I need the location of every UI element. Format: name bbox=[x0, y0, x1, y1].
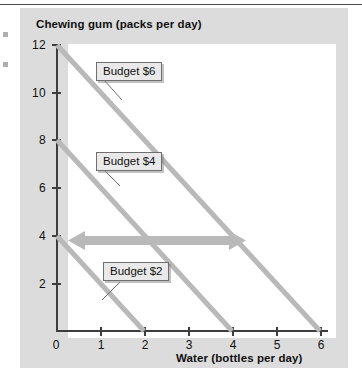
chart-overlay bbox=[0, 0, 362, 380]
budget-4-label: Budget $4 bbox=[96, 152, 162, 171]
budget-2-label: Budget $2 bbox=[103, 262, 169, 281]
budget-line-6 bbox=[57, 45, 320, 331]
leader-line-budget-4 bbox=[104, 170, 120, 186]
figure-root: 12 10 8 6 4 2 0 1 2 3 4 5 6 Chewing gum … bbox=[0, 0, 362, 380]
budget-line-2 bbox=[57, 236, 144, 331]
budget-6-label: Budget $6 bbox=[96, 62, 162, 81]
